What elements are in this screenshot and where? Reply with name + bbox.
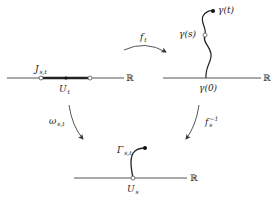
base-open-dot — [131, 176, 135, 180]
axis-label-r: ℝ — [190, 173, 198, 183]
curve-gamma — [202, 11, 213, 78]
point-label: Ut — [59, 84, 71, 95]
arrow-left-label: ωs,t — [49, 116, 65, 127]
arrow-left: ωs,t — [49, 105, 83, 139]
curve-end-filled-dot — [143, 146, 147, 150]
mapping-diagram: ℝ Js,t Ut ℝ γ(t) γ(s) γ(0) ft ωs,t fs−1 … — [0, 0, 272, 209]
curve-mid-open-dot — [203, 33, 207, 37]
curve-gamma-st — [131, 148, 145, 178]
arrow-right-path — [186, 105, 199, 139]
point-label: Us — [127, 184, 139, 195]
interval-end-open-dot — [88, 76, 92, 80]
curve-mid-label: γ(s) — [179, 29, 197, 39]
curve-end-filled-dot — [211, 9, 215, 13]
arrow-top-path — [124, 45, 166, 52]
curve-start-label: γ(0) — [199, 83, 218, 93]
curve-end-label: γ(t) — [218, 5, 235, 15]
interval-label: Js,t — [33, 64, 48, 75]
axis-label-r: ℝ — [126, 73, 134, 83]
arrow-top-label: ft — [139, 32, 147, 43]
arrow-top: ft — [124, 32, 166, 52]
axis-label-r: ℝ — [263, 73, 271, 83]
bottom-panel: ℝ Γs,t Us — [74, 145, 198, 195]
point-filled-dot — [64, 76, 67, 79]
curve-label: Γs,t — [116, 145, 132, 156]
top-left-panel: ℝ Js,t Ut — [7, 64, 134, 95]
arrow-right-label: fs−1 — [204, 115, 218, 128]
arrow-left-path — [69, 105, 83, 139]
top-right-panel: ℝ γ(t) γ(s) γ(0) — [163, 5, 271, 93]
interval-start-open-dot — [39, 76, 43, 80]
arrow-right: fs−1 — [186, 105, 218, 139]
